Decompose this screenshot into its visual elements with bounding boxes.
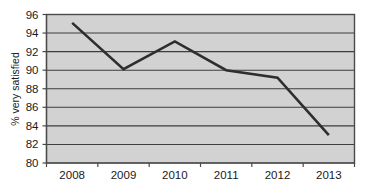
line-chart: 808284868890929496 200820092010201120122… xyxy=(0,0,366,191)
x-axis-tick-label: 2008 xyxy=(59,169,85,181)
chart-container: 808284868890929496 200820092010201120122… xyxy=(0,0,366,191)
x-axis-tick-label: 2012 xyxy=(265,169,291,181)
y-axis-tick-labels: 808284868890929496 xyxy=(26,9,39,170)
y-axis-tick-label: 84 xyxy=(26,120,39,132)
y-axis-tick-label: 86 xyxy=(26,101,39,113)
y-axis-tick-label: 92 xyxy=(26,46,39,58)
y-axis-tick-label: 88 xyxy=(26,83,39,95)
y-axis-tick-label: 80 xyxy=(26,157,39,169)
y-axis-tick-label: 94 xyxy=(26,27,39,39)
y-axis-title: % very satisfied xyxy=(9,52,21,126)
x-axis-tick-label: 2013 xyxy=(316,169,342,181)
y-axis-tick-label: 96 xyxy=(26,9,39,21)
x-axis-tick-label: 2011 xyxy=(214,169,239,181)
x-axis-tick-label: 2009 xyxy=(111,169,137,181)
x-axis-tick-label: 2010 xyxy=(162,169,188,181)
y-axis-tick-label: 82 xyxy=(26,138,39,150)
y-axis-tick-label: 90 xyxy=(26,64,39,76)
